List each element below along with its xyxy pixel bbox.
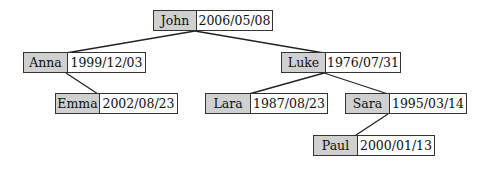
node-name: Lara <box>206 94 251 113</box>
node-name: Paul <box>314 136 358 155</box>
node-name: John <box>154 11 197 30</box>
node-name: Emma <box>56 94 100 113</box>
node-lara: Lara 1987/08/23 <box>205 93 328 114</box>
edge-anna-emma <box>66 73 98 94</box>
node-luke: Luke 1976/07/31 <box>281 52 401 73</box>
node-sara: Sara 1995/03/14 <box>345 93 467 114</box>
node-name: Sara <box>346 94 390 113</box>
node-date: 1987/08/23 <box>251 94 327 113</box>
node-date: 2006/05/08 <box>197 11 272 30</box>
edge-luke-sara <box>324 73 388 94</box>
node-emma: Emma 2002/08/23 <box>55 93 178 114</box>
node-john: John 2006/05/08 <box>153 10 273 31</box>
edge-sara-paul <box>356 114 388 135</box>
node-date: 2000/01/13 <box>358 136 434 155</box>
node-paul: Paul 2000/01/13 <box>313 135 435 156</box>
node-anna: Anna 1999/12/03 <box>23 52 146 73</box>
node-date: 1976/07/31 <box>326 53 400 72</box>
node-name: Luke <box>282 53 326 72</box>
edge-john-luke <box>195 31 324 53</box>
node-date: 1999/12/03 <box>68 53 145 72</box>
node-name: Anna <box>24 53 68 72</box>
edge-luke-lara <box>249 73 324 94</box>
node-date: 1995/03/14 <box>390 94 466 113</box>
node-date: 2002/08/23 <box>100 94 177 113</box>
edge-john-anna <box>66 31 195 53</box>
